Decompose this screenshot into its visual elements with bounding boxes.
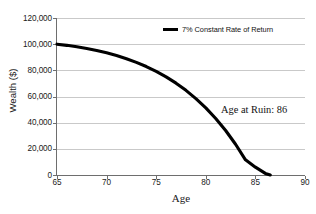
y-axis-title: Wealth ($) <box>7 43 18 139</box>
wealth-depletion-chart: 120,000 100,000 80,000 60,000 40,000 20,… <box>0 0 316 214</box>
legend: 7% Constant Rate of Return <box>163 25 273 34</box>
age-at-ruin-annotation: Age at Ruin: 86 <box>221 104 287 115</box>
x-axis-title: Age <box>57 192 305 204</box>
legend-swatch-line <box>163 28 178 31</box>
legend-label: 7% Constant Rate of Return <box>182 25 273 34</box>
